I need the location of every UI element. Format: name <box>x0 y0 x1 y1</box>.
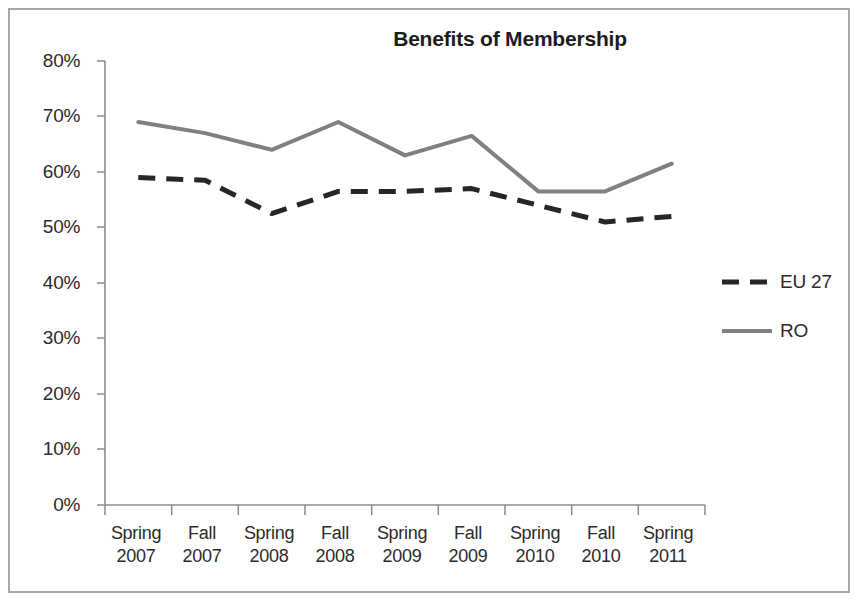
x-tick-year: 2009 <box>435 545 501 568</box>
x-axis-tick-label: Spring 2009 <box>369 522 435 568</box>
x-axis-tick-label: Spring 2007 <box>103 522 169 568</box>
x-tick-year: 2010 <box>568 545 634 568</box>
x-axis-tick-label: Fall 2007 <box>169 522 235 568</box>
x-axis-ticks <box>105 505 705 515</box>
x-tick-year: 2007 <box>103 545 169 568</box>
x-tick-year: 2008 <box>302 545 368 568</box>
x-tick-season: Fall <box>454 523 482 543</box>
x-tick-year: 2009 <box>369 545 435 568</box>
series-line-ro <box>138 122 671 191</box>
x-tick-season: Fall <box>321 523 349 543</box>
x-tick-year: 2010 <box>502 545 568 568</box>
x-axis-tick-label: Fall 2009 <box>435 522 501 568</box>
x-tick-season: Spring <box>510 523 560 543</box>
x-tick-season: Spring <box>643 523 693 543</box>
legend-label-ro: RO <box>780 320 808 342</box>
x-tick-season: Fall <box>587 523 615 543</box>
x-tick-season: Spring <box>244 523 294 543</box>
x-axis-tick-label: Spring 2010 <box>502 522 568 568</box>
x-tick-season: Fall <box>188 523 216 543</box>
series-line-eu-27 <box>138 178 671 223</box>
x-tick-season: Spring <box>377 523 427 543</box>
x-tick-year: 2011 <box>635 545 701 568</box>
x-axis-tick-label: Spring 2011 <box>635 522 701 568</box>
plot-canvas <box>0 0 858 601</box>
x-tick-season: Spring <box>111 523 161 543</box>
y-axis-ticks <box>97 61 105 505</box>
x-axis-tick-label: Fall 2008 <box>302 522 368 568</box>
x-tick-year: 2007 <box>169 545 235 568</box>
legend-label-eu-27: EU 27 <box>780 271 832 293</box>
line-chart: Benefits of Membership 80% 70% 60% 50% 4… <box>0 0 858 601</box>
chart-screenshot: Benefits of Membership 80% 70% 60% 50% 4… <box>0 0 858 601</box>
x-axis-tick-label: Spring 2008 <box>236 522 302 568</box>
x-axis-tick-label: Fall 2010 <box>568 522 634 568</box>
x-tick-year: 2008 <box>236 545 302 568</box>
